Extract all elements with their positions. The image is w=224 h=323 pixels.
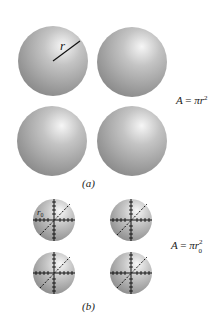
- caption-b: (b): [82, 300, 95, 313]
- small-sphere-with-axes: [110, 199, 152, 241]
- equation-b: A = πr20: [170, 238, 203, 255]
- large-sphere: [97, 27, 167, 97]
- caption-a: (a): [82, 177, 95, 190]
- small-sphere-with-axes: [110, 252, 152, 294]
- panel-b: r0 A = πr20 (b): [33, 199, 203, 313]
- panel-a: r A = πr2 (a): [17, 26, 208, 190]
- equation-a: A = πr2: [175, 94, 208, 106]
- small-sphere-with-axes: [33, 252, 75, 294]
- large-sphere: [17, 106, 87, 176]
- large-sphere: [97, 106, 167, 176]
- figure-canvas: r A = πr2 (a) r0 A = πr2: [0, 0, 224, 323]
- small-sphere-with-axes: [33, 199, 75, 241]
